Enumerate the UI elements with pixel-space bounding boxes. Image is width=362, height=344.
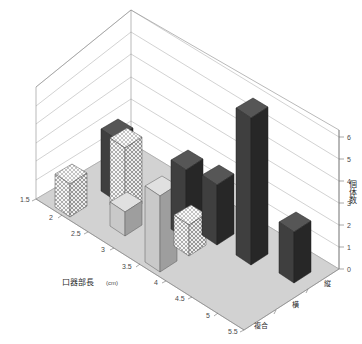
x-axis-title: 口器部長 (cm) <box>62 277 118 287</box>
x-tick-6: 4.5 <box>175 295 185 302</box>
x-axis-label: 口器部長 <box>62 277 94 287</box>
bar-row-fukugo-x5 <box>236 98 268 265</box>
z-tick-5: 5 <box>347 156 351 163</box>
x-tick-1: 2 <box>49 214 53 221</box>
x-tick-5: 4 <box>154 279 158 286</box>
x-tick-8: 5.5 <box>228 328 238 335</box>
z-tick-6: 6 <box>347 134 351 141</box>
y-category-2: 複合 <box>254 321 268 330</box>
bar-row-yoko-x45-hatch <box>174 205 206 256</box>
z-axis: 0 1 2 3 4 5 6 個体数 <box>339 130 357 273</box>
z-tick-0: 0 <box>347 266 351 273</box>
chart-canvas: 1.5 2 2.5 3 3.5 4 4.5 5 5.5 口器部長 (cm) 縦 … <box>0 0 362 344</box>
y-category-0: 縦 <box>324 279 331 288</box>
bar-row-tate-x2 <box>55 164 87 217</box>
bar-chart-3d: 1.5 2 2.5 3 3.5 4 4.5 5 5.5 口器部長 (cm) 縦 … <box>0 0 362 344</box>
x-axis-unit: (cm) <box>106 280 118 286</box>
x-tick-0: 1.5 <box>20 196 30 203</box>
bar-row-fukugo-x55 <box>279 212 311 283</box>
x-tick-4: 3.5 <box>122 263 132 270</box>
z-axis-label: 個体数 <box>348 179 357 205</box>
y-category-1: 横 <box>292 300 299 309</box>
x-tick-2: 2.5 <box>71 230 81 237</box>
x-tick-3: 3 <box>101 246 105 253</box>
x-tick-7: 5 <box>206 312 210 319</box>
z-tick-1: 1 <box>347 244 351 251</box>
z-tick-2: 2 <box>347 222 351 229</box>
bar-row-fukugo-x45 <box>202 165 234 245</box>
